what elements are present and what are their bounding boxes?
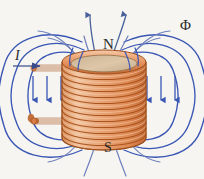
south-pole-label: S bbox=[104, 141, 112, 155]
solenoid-magnetic-field-figure: N S I Φ bbox=[0, 0, 204, 179]
solenoid-coil bbox=[62, 50, 146, 150]
north-pole-label: N bbox=[103, 37, 114, 52]
lead-wire-bottom-cap bbox=[32, 118, 37, 124]
current-label: I bbox=[15, 49, 20, 63]
flux-label: Φ bbox=[180, 18, 191, 33]
solenoid-diagram-svg bbox=[0, 0, 204, 179]
